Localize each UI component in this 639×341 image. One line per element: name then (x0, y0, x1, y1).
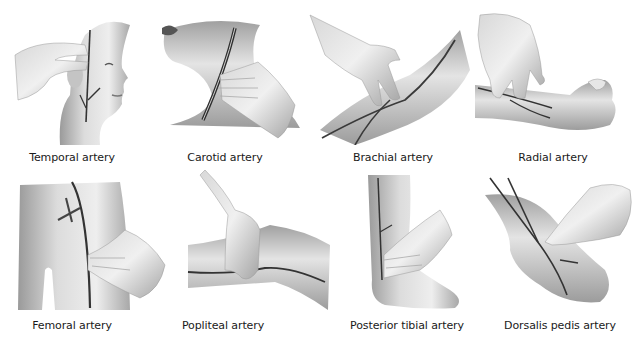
carotid-artery-illustration (150, 0, 310, 145)
caption-carotid-artery: Carotid artery (187, 151, 262, 164)
panel-popliteal-artery (180, 170, 340, 310)
caption-posterior-tibial-artery: Posterior tibial artery (350, 319, 464, 332)
caption-femoral-artery: Femoral artery (32, 319, 112, 332)
panel-radial-artery (470, 0, 639, 145)
caption-brachial-artery: Brachial artery (353, 151, 433, 164)
caption-popliteal-artery: Popliteal artery (182, 319, 264, 332)
panel-brachial-artery (300, 0, 475, 145)
panel-dorsalis-pedis-artery (470, 170, 639, 310)
panel-temporal-artery (0, 0, 160, 145)
caption-dorsalis-pedis-artery: Dorsalis pedis artery (504, 319, 616, 332)
caption-radial-artery: Radial artery (518, 151, 588, 164)
temporal-artery-illustration (0, 0, 160, 145)
dorsalis-pedis-artery-illustration (470, 170, 639, 310)
posterior-tibial-artery-illustration (340, 170, 480, 310)
panel-femoral-artery (0, 170, 180, 310)
femoral-artery-illustration (0, 170, 180, 310)
popliteal-artery-illustration (180, 170, 340, 310)
caption-temporal-artery: Temporal artery (29, 151, 115, 164)
panel-carotid-artery (150, 0, 310, 145)
radial-artery-illustration (470, 0, 639, 145)
panel-posterior-tibial-artery (340, 170, 480, 310)
brachial-artery-illustration (300, 0, 475, 145)
